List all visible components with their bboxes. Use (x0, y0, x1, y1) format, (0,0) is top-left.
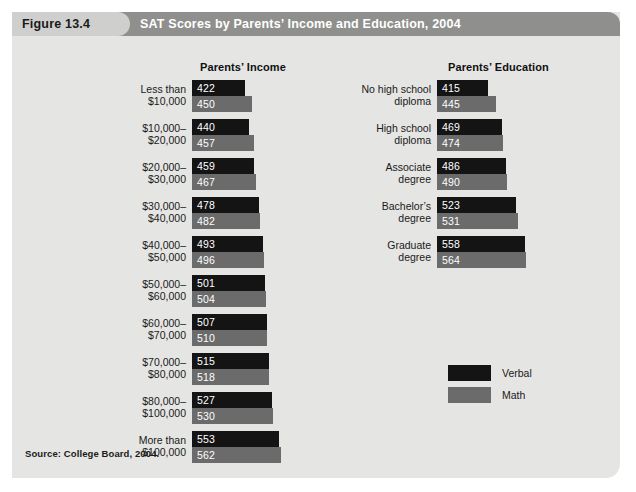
bar-value-label: 564 (437, 254, 460, 266)
bar-verbal: 527 (192, 392, 272, 408)
category-label-line: $60,000 (74, 291, 186, 303)
category-label: No high schooldiploma (319, 84, 431, 107)
bar-verbal: 415 (437, 80, 488, 96)
legend-item-math: Math (448, 386, 532, 403)
chart-legend: Verbal Math (448, 364, 532, 408)
bar-value-label: 523 (437, 199, 460, 211)
category-label-line: diploma (319, 96, 431, 108)
bar-verbal: 553 (192, 431, 279, 447)
section-title-education: Parents’ Education (448, 61, 549, 73)
category-label-line: $70,000 (74, 330, 186, 342)
category-label: $60,000–$70,000 (74, 318, 186, 341)
bar-value-label: 558 (437, 238, 460, 250)
figure-number-label: Figure 13.4 (22, 17, 90, 31)
category-label-line: diploma (319, 135, 431, 147)
category-label-line: $60,000– (74, 318, 186, 330)
bar-value-label: 469 (437, 121, 460, 133)
bar-value-label: 518 (192, 371, 215, 383)
bar-verbal: 515 (192, 353, 269, 369)
legend-label-math: Math (502, 389, 525, 401)
category-label: $70,000–$80,000 (74, 357, 186, 380)
source-note: Source: College Board, 2004. (25, 448, 159, 459)
category-label-line: $40,000– (74, 240, 186, 252)
bar-verbal: 422 (192, 80, 245, 96)
bar-value-label: 450 (192, 98, 215, 110)
bar-verbal: 440 (192, 119, 249, 135)
category-label: $20,000–$30,000 (74, 162, 186, 185)
bar-math: 474 (437, 135, 503, 151)
section-title-income: Parents’ Income (200, 61, 286, 73)
category-label-line: Bachelor’s (319, 201, 431, 213)
bar-math: 490 (437, 174, 507, 190)
category-label-line: $80,000– (74, 396, 186, 408)
bar-math: 450 (192, 96, 252, 112)
bar-value-label: 478 (192, 199, 215, 211)
category-label: $40,000–$50,000 (74, 240, 186, 263)
bar-math: 496 (192, 252, 264, 268)
category-label: Associatedegree (319, 162, 431, 185)
category-label-line: Associate (319, 162, 431, 174)
bar-value-label: 562 (192, 449, 215, 461)
legend-item-verbal: Verbal (448, 364, 532, 381)
bar-value-label: 510 (192, 332, 215, 344)
bar-value-label: 496 (192, 254, 215, 266)
figure-title: SAT Scores by Parents’ Income and Educat… (140, 12, 461, 36)
category-label-line: Graduate (319, 240, 431, 252)
bar-value-label: 501 (192, 277, 215, 289)
bar-math: 504 (192, 291, 266, 307)
category-label: $30,000–$40,000 (74, 201, 186, 224)
legend-swatch-math-icon (448, 387, 491, 403)
category-label-line: $20,000– (74, 162, 186, 174)
bar-value-label: 459 (192, 160, 215, 172)
bar-value-label: 482 (192, 215, 215, 227)
bar-verbal: 493 (192, 236, 263, 252)
bar-verbal: 486 (437, 158, 506, 174)
bar-value-label: 507 (192, 316, 215, 328)
bar-value-label: 474 (437, 137, 460, 149)
category-label: Graduatedegree (319, 240, 431, 263)
bar-math: 482 (192, 213, 260, 229)
category-label-line: Less than (74, 84, 186, 96)
category-label-line: More than (74, 435, 186, 447)
bar-value-label: 457 (192, 137, 215, 149)
bar-math: 467 (192, 174, 256, 190)
category-label-line: High school (319, 123, 431, 135)
bar-math: 457 (192, 135, 254, 151)
category-label-line: $10,000 (74, 96, 186, 108)
bar-value-label: 440 (192, 121, 215, 133)
legend-label-verbal: Verbal (502, 367, 532, 379)
category-label-line: $20,000 (74, 135, 186, 147)
category-label: Bachelor’sdegree (319, 201, 431, 224)
bar-value-label: 531 (437, 215, 460, 227)
figure-number-tab: Figure 13.4 (12, 12, 130, 36)
bar-value-label: 504 (192, 293, 215, 305)
category-label-line: $30,000 (74, 174, 186, 186)
bar-verbal: 501 (192, 275, 265, 291)
bar-verbal: 523 (437, 197, 516, 213)
figure-panel: Figure 13.4 SAT Scores by Parents’ Incom… (12, 12, 620, 478)
legend-swatch-verbal-icon (448, 365, 491, 381)
category-label-line: degree (319, 174, 431, 186)
bar-math: 564 (437, 252, 526, 268)
bar-verbal: 459 (192, 158, 254, 174)
bar-verbal: 558 (437, 236, 525, 252)
bar-value-label: 445 (437, 98, 460, 110)
bar-value-label: 530 (192, 410, 215, 422)
bar-value-label: 486 (437, 160, 460, 172)
category-label-line: $30,000– (74, 201, 186, 213)
category-label-line: $80,000 (74, 369, 186, 381)
category-label: $10,000–$20,000 (74, 123, 186, 146)
category-label: $50,000–$60,000 (74, 279, 186, 302)
bar-math: 510 (192, 330, 267, 346)
bar-value-label: 422 (192, 82, 215, 94)
bar-math: 562 (192, 447, 281, 463)
category-label: $80,000–$100,000 (74, 396, 186, 419)
category-label-line: $100,000 (74, 408, 186, 420)
category-label-line: $50,000– (74, 279, 186, 291)
category-label-line: $50,000 (74, 252, 186, 264)
bar-value-label: 415 (437, 82, 460, 94)
category-label: High schooldiploma (319, 123, 431, 146)
bar-math: 445 (437, 96, 496, 112)
bar-math: 531 (437, 213, 518, 229)
bar-value-label: 515 (192, 355, 215, 367)
